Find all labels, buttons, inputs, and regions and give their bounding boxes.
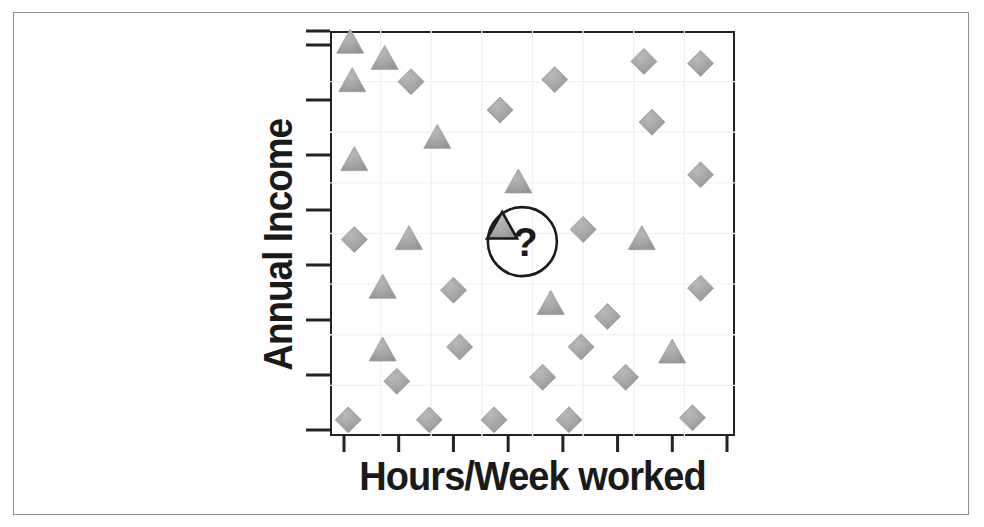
figure-root: Annual Income Hours/Week worked ? bbox=[0, 0, 984, 527]
y-axis-title: Annual Income bbox=[250, 52, 306, 438]
x-axis-title: Hours/Week worked bbox=[340, 452, 725, 500]
plot-area bbox=[330, 31, 735, 436]
